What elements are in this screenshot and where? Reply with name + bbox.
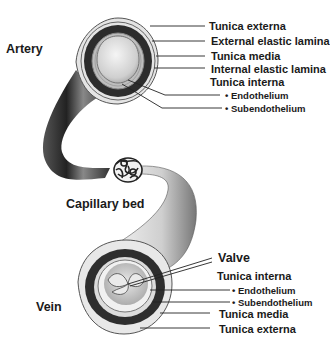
label-capillary-bed: Capillary bed <box>66 198 145 211</box>
label-vein-subendothelium: Subendothelium <box>232 298 312 308</box>
label-vein: Vein <box>36 301 62 314</box>
label-vein-valve: Valve <box>218 252 250 265</box>
label-artery-tunica-externa: Tunica externa <box>209 21 286 32</box>
label-vein-tunica-interna: Tunica interna <box>217 271 291 282</box>
label-artery: Artery <box>6 43 43 56</box>
artery-cross-section <box>76 18 158 104</box>
label-vein-tunica-media: Tunica media <box>219 309 288 320</box>
label-artery-subendothelium: Subendothelium <box>225 104 305 114</box>
label-artery-internal-elastic-lamina: Internal elastic lamina <box>211 64 326 75</box>
label-artery-endothelium: Endothelium <box>225 91 289 101</box>
label-artery-tunica-interna: Tunica interna <box>210 77 284 88</box>
label-artery-external-elastic-lamina: External elastic lamina <box>211 36 330 47</box>
artery-lumen <box>97 36 139 83</box>
vein-cross-section <box>78 240 172 334</box>
label-vein-endothelium: Endothelium <box>232 286 296 296</box>
label-artery-tunica-media: Tunica media <box>211 51 280 62</box>
label-vein-tunica-externa: Tunica externa <box>219 324 296 335</box>
capillary-bed <box>114 158 142 182</box>
